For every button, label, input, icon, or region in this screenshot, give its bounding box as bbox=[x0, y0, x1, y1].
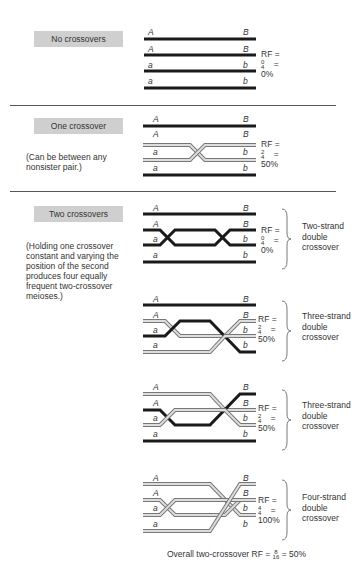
panel-three-strand-1: AB AB ab ab bbox=[143, 294, 291, 361]
svg-text:A: A bbox=[152, 203, 159, 213]
svg-text:A: A bbox=[147, 44, 154, 54]
panel-four-strand: AB AB ab ab bbox=[143, 473, 291, 540]
svg-text:b: b bbox=[243, 519, 248, 529]
svg-text:B: B bbox=[243, 382, 249, 392]
svg-text:A: A bbox=[152, 294, 159, 304]
svg-text:b: b bbox=[243, 413, 248, 423]
panel-no-crossover: AB AB ab ab bbox=[144, 27, 256, 88]
panel-three-strand-2: AB AB ab ab bbox=[143, 382, 291, 450]
svg-text:b: b bbox=[243, 163, 248, 173]
svg-text:B: B bbox=[243, 310, 249, 320]
svg-text:a: a bbox=[153, 519, 158, 529]
svg-text:A: A bbox=[152, 114, 159, 124]
svg-text:B: B bbox=[243, 44, 249, 54]
svg-text:A: A bbox=[152, 398, 159, 408]
chromatid-diagram: AB AB ab ab AB AB ab ab AB AB ab ab AB A… bbox=[0, 0, 359, 567]
svg-text:a: a bbox=[153, 250, 158, 260]
svg-text:a: a bbox=[153, 325, 158, 335]
svg-text:a: a bbox=[153, 503, 158, 513]
svg-text:B: B bbox=[243, 294, 249, 304]
svg-text:B: B bbox=[243, 27, 249, 37]
svg-text:B: B bbox=[243, 219, 249, 229]
svg-text:b: b bbox=[243, 340, 248, 350]
svg-text:B: B bbox=[243, 488, 249, 498]
svg-text:A: A bbox=[152, 310, 159, 320]
svg-text:b: b bbox=[243, 325, 248, 335]
svg-text:b: b bbox=[243, 76, 248, 86]
svg-text:B: B bbox=[243, 473, 249, 483]
svg-text:b: b bbox=[243, 503, 248, 513]
svg-text:b: b bbox=[243, 60, 248, 70]
svg-text:a: a bbox=[153, 413, 158, 423]
svg-text:a: a bbox=[153, 234, 158, 244]
svg-text:A: A bbox=[152, 219, 159, 229]
svg-text:B: B bbox=[243, 129, 249, 139]
panel-two-strand: AB AB ab ab bbox=[143, 203, 291, 269]
svg-text:A: A bbox=[152, 473, 159, 483]
svg-text:b: b bbox=[243, 234, 248, 244]
svg-text:B: B bbox=[243, 114, 249, 124]
svg-text:b: b bbox=[243, 250, 248, 260]
svg-text:b: b bbox=[243, 429, 248, 439]
svg-text:b: b bbox=[243, 147, 248, 157]
svg-text:a: a bbox=[148, 60, 153, 70]
svg-text:A: A bbox=[152, 488, 159, 498]
svg-text:a: a bbox=[148, 76, 153, 86]
svg-text:B: B bbox=[243, 398, 249, 408]
svg-text:a: a bbox=[153, 147, 158, 157]
svg-text:A: A bbox=[147, 27, 154, 37]
svg-text:A: A bbox=[152, 129, 159, 139]
svg-text:a: a bbox=[153, 429, 158, 439]
svg-text:a: a bbox=[153, 163, 158, 173]
svg-text:B: B bbox=[243, 203, 249, 213]
panel-one-crossover: AB AB ab ab bbox=[143, 114, 256, 175]
svg-text:a: a bbox=[153, 340, 158, 350]
svg-text:A: A bbox=[152, 382, 159, 392]
